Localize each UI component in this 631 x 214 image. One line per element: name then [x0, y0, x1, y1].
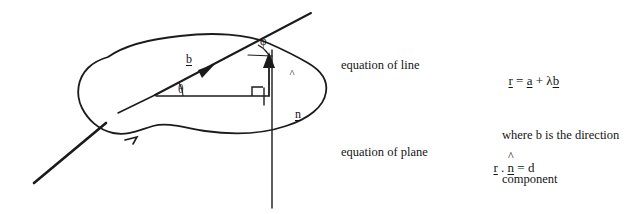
line-equation-equals: =: [513, 73, 527, 88]
intersecting-line-lower-left: [34, 123, 106, 183]
direction-note-line-1: where b is the direction: [502, 128, 619, 143]
plane-equation-hat-glyph: ^: [508, 151, 514, 163]
line-equation-b: b: [553, 73, 560, 88]
intersecting-line-inside: [118, 95, 155, 113]
plane-equation-d: d: [528, 160, 535, 175]
plane-equation-dot: .: [498, 160, 508, 175]
right-angle-marker: [252, 87, 263, 96]
normal-vector-arrowhead: [263, 52, 275, 68]
plane-equation-equals: =: [514, 160, 528, 175]
phi-label: φ: [260, 35, 267, 47]
plane-equation: r . ^n = d: [487, 145, 534, 176]
line-entry-tick: [125, 137, 137, 144]
plane-equation-n-hat: ^n: [508, 160, 515, 175]
unit-normal-hat-glyph: ^: [289, 68, 294, 79]
line-equation-plus: +: [532, 73, 546, 88]
equation-of-line-label: equation of line: [341, 58, 419, 73]
equation-of-plane-label: equation of plane: [341, 145, 428, 160]
direction-vector-label: b: [186, 52, 192, 67]
theta-label: θ: [178, 83, 184, 95]
unit-normal-label: ^ n: [277, 62, 301, 137]
unit-normal-letter: n: [295, 107, 301, 121]
direction-vector-arrowhead: [198, 64, 215, 78]
line-equation: r = a + λb: [502, 58, 559, 89]
